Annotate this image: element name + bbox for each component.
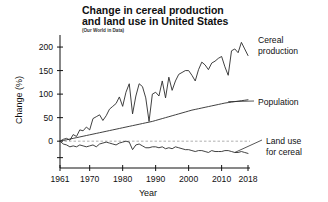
y-tick-label: 200	[39, 42, 54, 52]
leader-line-land-use	[235, 140, 262, 152]
x-tick-label: 2010	[212, 174, 231, 184]
annotation-cereal-line2: production	[258, 46, 298, 56]
y-axis-label: Change (%)	[14, 76, 24, 124]
annotation-land-use-line2: for cereal	[266, 147, 302, 157]
chart-title-line2: and land use in United States	[82, 15, 229, 27]
series-line-cereal-production	[60, 42, 248, 141]
annotation-land-use-line1: Land use	[266, 136, 302, 146]
x-tick-label: 2018	[238, 174, 257, 184]
x-tick-label: 1961	[50, 174, 69, 184]
y-axis-ticks: 050100150200	[39, 42, 63, 158]
x-tick-label: 1990	[146, 174, 165, 184]
leader-line-population	[228, 101, 254, 102]
chart-figure: Change in cereal production and land use…	[0, 0, 328, 202]
x-axis-label: Year	[139, 188, 157, 198]
annotation-population: Population	[258, 97, 299, 107]
x-tick-label: 2000	[179, 174, 198, 184]
y-tick-label: 100	[39, 89, 54, 99]
y-tick-label: 150	[39, 66, 54, 76]
x-tick-label: 1980	[113, 174, 132, 184]
y-tick-label: 50	[43, 113, 53, 123]
chart-subtitle: (Our World in Data)	[82, 28, 124, 33]
x-tick-label: 1970	[80, 174, 99, 184]
annotation-cereal-line1: Cereal	[258, 35, 283, 45]
series-line-population	[60, 100, 248, 141]
y-tick-label: 0	[48, 136, 53, 146]
series-line-land-use	[60, 141, 248, 153]
